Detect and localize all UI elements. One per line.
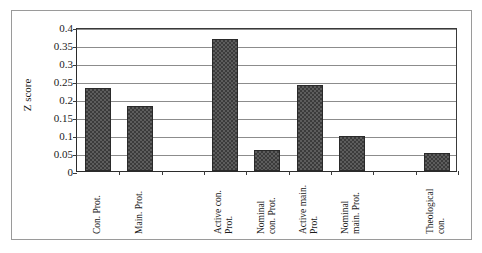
bar bbox=[85, 88, 111, 171]
y-tick-label: 0.25 bbox=[54, 77, 73, 87]
y-tick-label: 0.3 bbox=[59, 59, 73, 69]
x-category-label-line: Nominal bbox=[340, 201, 351, 234]
x-category-label-line: Main. Prot. bbox=[134, 191, 145, 234]
bar-slot bbox=[416, 29, 458, 171]
x-tick-mark bbox=[289, 171, 290, 175]
x-category-label-line: Active con. bbox=[213, 190, 224, 234]
bar-slot bbox=[331, 29, 373, 171]
bar bbox=[127, 106, 153, 171]
bar bbox=[212, 39, 238, 171]
x-tick-mark bbox=[204, 171, 205, 175]
y-tick-label: 0.15 bbox=[54, 113, 73, 123]
x-axis-line bbox=[76, 171, 457, 172]
bar-slot bbox=[119, 29, 161, 171]
bar-slot bbox=[204, 29, 246, 171]
y-tick-label: 0.2 bbox=[59, 95, 73, 105]
y-axis-tick-labels: 0.40.350.30.250.20.150.10.050 bbox=[40, 22, 73, 178]
x-category-label-line: Con. Prot. bbox=[92, 195, 103, 234]
x-category-label-line: main. Prot. bbox=[351, 192, 362, 234]
x-category-label-line: Active main. bbox=[298, 185, 309, 234]
bar-slot bbox=[246, 29, 288, 171]
y-tick-label: 0.05 bbox=[54, 149, 73, 159]
x-tick-mark bbox=[331, 171, 332, 175]
x-category-label-line: con. Prot. bbox=[267, 197, 278, 234]
bar-series bbox=[77, 29, 456, 171]
x-category-label-line: con. bbox=[436, 218, 447, 234]
x-tick-mark bbox=[119, 171, 120, 175]
x-category-label-line: Nominal bbox=[256, 201, 267, 234]
x-category-label-line: Theological bbox=[425, 189, 436, 234]
x-tick-mark bbox=[162, 171, 163, 175]
x-category-label-line: Prot. bbox=[309, 216, 320, 234]
bar bbox=[424, 153, 450, 171]
y-tick-label: 0.4 bbox=[59, 23, 73, 33]
bar-slot bbox=[77, 29, 119, 171]
x-category-label-line: Prot. bbox=[224, 216, 235, 234]
x-tick-mark bbox=[246, 171, 247, 175]
plot-area bbox=[76, 28, 457, 172]
y-axis-title-text: Z score bbox=[21, 79, 33, 112]
x-tick-mark bbox=[416, 171, 417, 175]
bar bbox=[254, 150, 280, 171]
x-tick-mark bbox=[458, 171, 459, 175]
bar-slot bbox=[289, 29, 331, 171]
y-tick-mark bbox=[73, 173, 77, 174]
y-tick-label: 0.1 bbox=[59, 131, 73, 141]
y-tick-label: 0.35 bbox=[54, 41, 73, 51]
y-tick-label: 0 bbox=[68, 167, 74, 177]
bar bbox=[339, 136, 365, 171]
bar bbox=[297, 85, 323, 171]
y-axis-title: Z score bbox=[16, 55, 38, 135]
x-tick-mark bbox=[373, 171, 374, 175]
x-axis-category-labels: Con. Prot.Main. Prot.Active con.Prot.Nom… bbox=[76, 176, 457, 238]
chart-screenshot: Z score 0.40.350.30.250.20.150.10.050 Co… bbox=[0, 0, 482, 253]
